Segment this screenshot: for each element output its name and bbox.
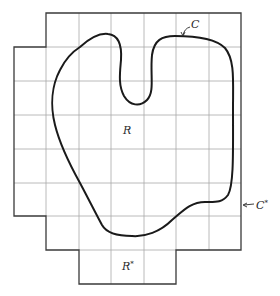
outer-boundary-c-star [14,13,241,284]
outer-curve-label-sup: * [264,199,268,207]
region-label: R [122,124,131,137]
svg-text:R*: R* [121,260,134,273]
outer-region-label: R [121,260,130,273]
closed-curve-c [52,34,233,236]
outer-curve-label: C* [243,199,268,212]
grid-lines [14,13,241,284]
curve-label: C [191,18,200,31]
outer-region-label-sup: * [130,260,134,268]
region-grid-diagram: C C* R R* [0,0,280,296]
svg-text:C*: C* [256,199,268,212]
curve-c-label: C [181,18,200,36]
